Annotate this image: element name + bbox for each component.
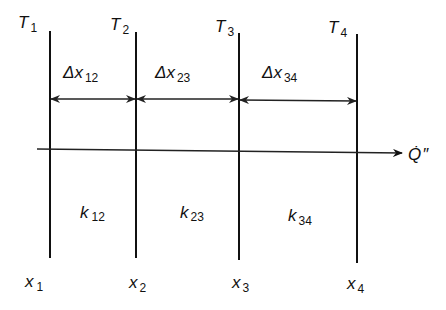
wall-diagram: T1 T2 T3 T4 Δx12 Δx23 Δx34 k12 k23 k34 x… [0, 0, 446, 310]
position-label-3: x3 [231, 273, 250, 295]
heat-flux-arrow [37, 149, 402, 153]
temp-label-3: T3 [215, 17, 234, 39]
temp-label-2: T2 [110, 15, 129, 37]
thickness-label-34: Δx34 [261, 63, 298, 85]
thickness-label-23: Δx23 [154, 63, 191, 85]
position-label-2: x2 [128, 273, 147, 295]
conductivity-label-12: k12 [80, 203, 105, 224]
heat-flux-label: Q̇″ [408, 145, 429, 164]
position-label-1: x1 [24, 272, 44, 294]
temp-label-4: T4 [328, 18, 347, 40]
conductivity-label-23: k23 [180, 203, 204, 224]
thickness-arrow-34 [240, 100, 356, 101]
position-label-4: x4 [346, 274, 365, 296]
temp-label-1: T1 [18, 13, 37, 35]
thickness-label-12: Δx12 [62, 63, 99, 85]
conductivity-label-34: k34 [288, 206, 312, 228]
